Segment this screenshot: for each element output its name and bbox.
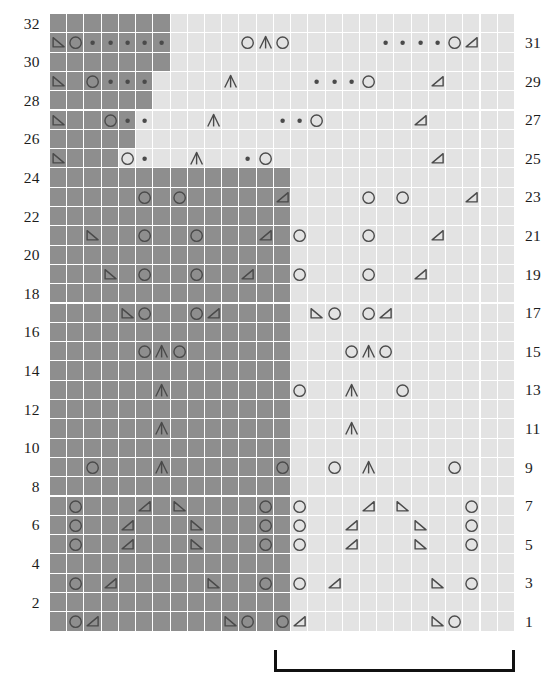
chart-cell — [257, 304, 274, 323]
yarn-over-symbol — [188, 304, 205, 323]
yarn-over-symbol — [360, 72, 377, 91]
chart-cell — [50, 246, 67, 265]
chart-cell — [326, 535, 343, 554]
chart-cell — [50, 91, 67, 110]
chart-cell — [343, 207, 360, 226]
chart-cell — [446, 400, 463, 419]
yarn-over-symbol — [291, 226, 308, 245]
chart-cell — [239, 72, 256, 91]
chart-cell — [274, 361, 291, 380]
chart-cell — [429, 593, 446, 612]
chart-cell — [171, 419, 188, 438]
chart-cell — [222, 323, 239, 342]
chart-cell — [84, 207, 101, 226]
yarn-over-symbol — [446, 458, 463, 477]
chart-cell — [171, 554, 188, 573]
chart-cell — [412, 381, 429, 400]
chart-cell — [67, 554, 84, 573]
chart-cell — [136, 477, 153, 496]
chart-cell — [291, 265, 308, 284]
yarn-over-symbol — [171, 188, 188, 207]
chart-cell — [222, 477, 239, 496]
decrease-right-symbol — [429, 226, 446, 245]
chart-cell — [153, 477, 170, 496]
chart-cell — [291, 381, 308, 400]
double-decrease-symbol — [343, 381, 360, 400]
chart-cell — [222, 361, 239, 380]
chart-cell — [308, 323, 325, 342]
chart-cell — [481, 33, 498, 52]
chart-cell — [119, 304, 136, 323]
chart-cell — [412, 246, 429, 265]
chart-cell — [412, 207, 429, 226]
chart-cell — [343, 574, 360, 593]
chart-cell — [446, 477, 463, 496]
chart-cell — [394, 111, 411, 130]
chart-cell — [326, 246, 343, 265]
chart-cell — [377, 265, 394, 284]
chart-cell — [205, 111, 222, 130]
chart-cell — [67, 574, 84, 593]
chart-cell — [394, 419, 411, 438]
purl-dot-symbol — [136, 72, 153, 91]
chart-cell — [257, 323, 274, 342]
yarn-over-symbol — [291, 381, 308, 400]
chart-cell — [84, 381, 101, 400]
chart-cell — [205, 593, 222, 612]
chart-cell — [360, 342, 377, 361]
row-number-left: 28 — [10, 93, 40, 109]
row-number-right: 17 — [525, 305, 555, 321]
chart-cell — [429, 439, 446, 458]
chart-cell — [84, 91, 101, 110]
chart-cell — [239, 304, 256, 323]
chart-cell — [153, 304, 170, 323]
chart-cell — [205, 207, 222, 226]
chart-cell — [463, 168, 480, 187]
chart-cell — [222, 207, 239, 226]
chart-cell — [326, 53, 343, 72]
chart-cell — [136, 304, 153, 323]
chart-cell — [257, 342, 274, 361]
chart-cell — [326, 612, 343, 631]
chart-cell — [67, 188, 84, 207]
chart-cell — [360, 323, 377, 342]
yarn-over-symbol — [67, 535, 84, 554]
decrease-right-symbol — [412, 265, 429, 284]
chart-cell — [222, 91, 239, 110]
chart-cell — [308, 477, 325, 496]
chart-cell — [463, 207, 480, 226]
chart-cell — [498, 130, 515, 149]
row-number-right: 3 — [525, 575, 555, 591]
yarn-over-symbol — [136, 188, 153, 207]
chart-cell — [412, 168, 429, 187]
chart-cell — [222, 188, 239, 207]
decrease-right-symbol — [84, 612, 101, 631]
chart-cell — [481, 535, 498, 554]
chart-cell — [463, 574, 480, 593]
chart-cell — [429, 381, 446, 400]
chart-cell — [188, 419, 205, 438]
chart-cell — [239, 168, 256, 187]
chart-cell — [394, 207, 411, 226]
chart-cell — [360, 207, 377, 226]
chart-cell — [188, 246, 205, 265]
yarn-over-symbol — [67, 574, 84, 593]
chart-cell — [239, 516, 256, 535]
chart-cell — [326, 72, 343, 91]
chart-cell — [326, 188, 343, 207]
chart-cell — [446, 535, 463, 554]
yarn-over-symbol — [188, 265, 205, 284]
chart-cell — [446, 574, 463, 593]
chart-cell — [153, 284, 170, 303]
chart-cell — [412, 188, 429, 207]
chart-cell — [222, 497, 239, 516]
chart-cell — [171, 400, 188, 419]
chart-cell — [343, 381, 360, 400]
chart-cell — [136, 91, 153, 110]
chart-cell — [257, 381, 274, 400]
chart-cell — [171, 477, 188, 496]
chart-cell — [239, 91, 256, 110]
chart-cell — [394, 188, 411, 207]
decrease-right-symbol — [377, 304, 394, 323]
yarn-over-symbol — [343, 342, 360, 361]
